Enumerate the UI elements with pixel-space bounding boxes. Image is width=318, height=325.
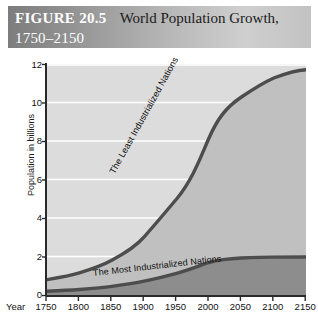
x-tick-label: 1900 <box>126 302 160 312</box>
x-tick-label: 1950 <box>159 302 193 312</box>
chart-axes <box>0 0 318 325</box>
figure-container: FIGURE 20.5World Population Growth, 1750… <box>0 0 318 325</box>
x-tick-label: 1800 <box>61 302 95 312</box>
x-tick-label: 2100 <box>256 302 290 312</box>
x-tick-label: 1750 <box>29 302 63 312</box>
x-axis-title: Year <box>6 302 25 312</box>
x-tick-label: 2150 <box>288 302 318 312</box>
x-tick-label: 2000 <box>191 302 225 312</box>
x-tick-label: 2050 <box>223 302 257 312</box>
x-tick-label: 1850 <box>94 302 128 312</box>
